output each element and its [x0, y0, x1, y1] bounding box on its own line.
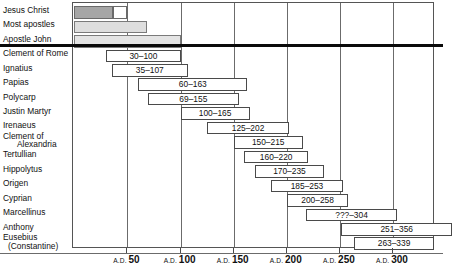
bar-value-label: 200–258: [301, 195, 334, 205]
bar-justin-martyr: 100–165: [181, 107, 250, 120]
row-label-eusebius-constantine: Eusebius(Constantine): [0, 233, 72, 250]
bar-origen: 185–253: [271, 180, 343, 193]
row-label-anthony: Anthony: [0, 223, 72, 232]
apostolic-era-divider: [0, 44, 443, 47]
bar-value-label: 170–235: [273, 166, 306, 176]
row-label-tertullian: Tertullian: [0, 150, 72, 159]
axis-label-ad-50: A.D. 50: [113, 254, 139, 267]
bar-most-apostles: [74, 21, 146, 34]
row-label-jesus-christ: Jesus Christ: [0, 6, 72, 15]
row-label-papias: Papias: [0, 78, 72, 87]
bar-marcellinus: ???–304: [306, 209, 397, 222]
bar-tertullian: 160–220: [244, 151, 308, 164]
row-label-justin-martyr: Justin Martyr: [0, 107, 72, 116]
row-label-apostle-john: Apostle John: [0, 35, 72, 44]
bar-segment-1: [113, 6, 128, 19]
row-label-hippolytus: Hippolytus: [0, 165, 72, 174]
bar-value-label: 125–202: [232, 123, 265, 133]
bar-value-label: 69–155: [179, 94, 207, 104]
row-label-irenaeus: Irenaeus: [0, 121, 72, 130]
gridline-ad-100: [181, 3, 182, 247]
bar-value-label: ???–304: [335, 210, 368, 220]
row-label-most-apostles: Most apostles: [0, 20, 72, 29]
category-label-column: Jesus ChristMost apostlesApostle JohnCle…: [0, 0, 72, 248]
bar-value-label: 185–253: [291, 181, 324, 191]
row-label-clement-of-rome: Clement of Rome: [0, 49, 72, 58]
axis-label-ad-200: A.D. 200: [270, 254, 302, 267]
bar-ignatius: 35–107: [112, 64, 188, 77]
bar-irenaeus: 125–202: [207, 122, 289, 135]
bar-value-label: 30–100: [129, 51, 157, 61]
axis-label-ad-300: A.D. 300: [376, 254, 408, 267]
axis-label-ad-250: A.D. 250: [323, 254, 355, 267]
row-label-polycarp: Polycarp: [0, 93, 72, 102]
bar-clement-of-rome: 30–100: [106, 50, 180, 63]
bar-hippolytus: 170–235: [255, 165, 324, 178]
bar-value-label: 100–165: [199, 108, 232, 118]
bar-value-label: 263–339: [378, 238, 411, 248]
row-label-origen: Origen: [0, 179, 72, 188]
bar-value-label: 35–107: [136, 65, 164, 75]
bar-clement-of-alexandria: 150–215: [234, 136, 303, 149]
bar-jesus-christ: [74, 6, 127, 19]
bar-value-label: 150–215: [252, 137, 285, 147]
bar-segment-0: [74, 6, 112, 19]
row-label-clement-of-alexandria: Clement ofAlexandria: [0, 132, 72, 149]
axis-label-ad-100: A.D. 100: [164, 254, 196, 267]
row-label-cyprian: Cyprian: [0, 194, 72, 203]
bar-papias: 60–163: [138, 78, 247, 91]
bar-value-label: 60–163: [179, 79, 207, 89]
bar-value-label: 160–220: [260, 152, 293, 162]
axis-label-ad-150: A.D. 150: [217, 254, 249, 267]
bar-polycarp: 69–155: [148, 93, 239, 106]
row-label-ignatius: Ignatius: [0, 64, 72, 73]
bar-cyprian: 200–258: [287, 194, 349, 207]
bar-anthony: 251–356: [341, 223, 452, 236]
plot-area: 30–10035–10760–16369–155100–165125–20215…: [72, 2, 434, 248]
row-label-marcellinus: Marcellinus: [0, 208, 72, 217]
bar-value-label: 251–356: [380, 224, 413, 234]
x-axis-labels: A.D. 50A.D. 100A.D. 150A.D. 200A.D. 250A…: [0, 254, 443, 268]
